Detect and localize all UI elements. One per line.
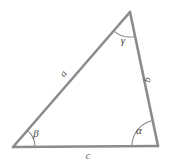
side-a-label: a	[57, 68, 69, 79]
triangle-diagram: a b c γ β α	[0, 0, 169, 163]
triangle-svg: a b c γ β α	[0, 0, 169, 163]
side-b-label: b	[141, 76, 153, 83]
angle-alpha-arc	[132, 121, 153, 147]
angle-gamma-label: γ	[121, 34, 126, 46]
side-c-label: c	[86, 150, 91, 161]
angle-beta-label: β	[32, 127, 39, 139]
side-a-line	[13, 12, 130, 147]
angle-alpha-label: α	[136, 124, 142, 136]
